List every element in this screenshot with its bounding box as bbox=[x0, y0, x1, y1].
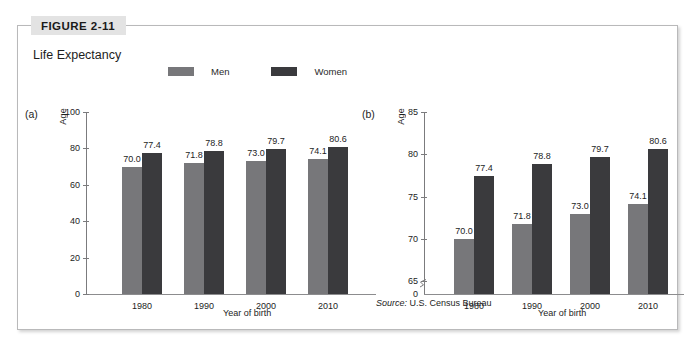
y-axis-tick bbox=[421, 112, 427, 113]
bar-men-2000 bbox=[246, 161, 266, 294]
legend-swatch-women-icon bbox=[271, 67, 297, 76]
panel-label-b: (b) bbox=[362, 108, 375, 120]
y-axis-tick bbox=[83, 148, 89, 149]
x-axis-title-b: Year of birth bbox=[538, 308, 586, 318]
bar-value-label: 70.0 bbox=[455, 226, 473, 236]
y-axis-line bbox=[424, 112, 425, 294]
bar-women-2010 bbox=[648, 149, 668, 294]
source-note: Source: U.S. Census Bureau bbox=[376, 298, 492, 308]
y-axis-tick bbox=[421, 239, 427, 240]
bar-value-label: 71.8 bbox=[513, 211, 531, 221]
bar-value-label: 78.8 bbox=[205, 138, 223, 148]
y-axis-tick bbox=[421, 197, 427, 198]
y-axis-tick bbox=[421, 154, 427, 155]
figure-number-tag: FIGURE 2-11 bbox=[31, 16, 126, 35]
y-axis-tick-label: 75 bbox=[390, 192, 418, 202]
chart-panel-a: (a) Age 02040608010070.077.4198071.878.8… bbox=[18, 86, 368, 321]
bar-value-label: 73.0 bbox=[571, 201, 589, 211]
chart-legend: Men Women bbox=[168, 66, 347, 77]
y-axis-tick bbox=[83, 258, 89, 259]
legend-label-women: Women bbox=[314, 66, 347, 77]
y-axis-tick-label: 20 bbox=[52, 253, 80, 263]
bar-value-label: 74.1 bbox=[629, 191, 647, 201]
x-axis-tick-label: 1990 bbox=[194, 301, 214, 311]
bar-men-1990 bbox=[512, 224, 532, 294]
y-axis-tick-label: 80 bbox=[390, 149, 418, 159]
bar-value-label: 79.7 bbox=[591, 144, 609, 154]
y-axis-tick-label: 100 bbox=[52, 107, 80, 117]
y-axis-tick-label: 85 bbox=[390, 107, 418, 117]
panel-label-a: (a) bbox=[25, 108, 38, 120]
axis-break-zigzag-icon bbox=[419, 278, 432, 289]
bar-value-label: 78.8 bbox=[533, 151, 551, 161]
bar-men-1980 bbox=[454, 239, 474, 294]
bar-value-label: 77.4 bbox=[475, 163, 493, 173]
bar-value-label: 74.1 bbox=[309, 146, 327, 156]
bar-women-1980 bbox=[474, 176, 494, 294]
bar-men-1990 bbox=[184, 163, 204, 294]
x-axis-tick-label: 2010 bbox=[318, 301, 338, 311]
legend-label-men: Men bbox=[211, 66, 229, 77]
bar-value-label: 80.6 bbox=[329, 134, 347, 144]
figure-title: Life Expectancy bbox=[33, 48, 121, 62]
bar-men-1980 bbox=[122, 167, 142, 294]
bar-women-2000 bbox=[266, 149, 286, 294]
bar-value-label: 77.4 bbox=[143, 140, 161, 150]
bar-women-1990 bbox=[532, 164, 552, 294]
plot-area-a: 02040608010070.077.4198071.878.8199073.0… bbox=[86, 112, 354, 294]
y-axis-tick bbox=[421, 281, 427, 282]
y-axis-tick bbox=[83, 112, 89, 113]
y-axis-tick-label: 0 bbox=[52, 289, 80, 299]
legend-swatch-men-icon bbox=[168, 67, 194, 76]
legend-item-women: Women bbox=[271, 66, 347, 77]
plot-area-b: 6570758085070.077.4198071.878.8199073.07… bbox=[424, 112, 662, 294]
bar-men-2000 bbox=[570, 214, 590, 294]
bar-men-2010 bbox=[628, 204, 648, 294]
bar-men-2010 bbox=[308, 159, 328, 294]
y-axis-tick bbox=[83, 294, 89, 295]
x-axis-tick-label: 1980 bbox=[132, 301, 152, 311]
y-axis-tick bbox=[83, 185, 89, 186]
bar-women-1980 bbox=[142, 153, 162, 294]
source-prefix: Source: bbox=[376, 298, 407, 308]
y-axis-tick-label: 70 bbox=[390, 234, 418, 244]
y-axis-tick-label: 65 bbox=[390, 276, 418, 286]
bar-women-1990 bbox=[204, 151, 224, 294]
bar-value-label: 73.0 bbox=[247, 148, 265, 158]
bar-value-label: 80.6 bbox=[649, 136, 667, 146]
y-axis-tick-label: 40 bbox=[52, 216, 80, 226]
bar-women-2010 bbox=[328, 147, 348, 294]
bar-value-label: 70.0 bbox=[123, 154, 141, 164]
x-axis-title-a: Year of birth bbox=[223, 308, 271, 318]
figure-frame: FIGURE 2-11 Life Expectancy Men Women (a… bbox=[17, 25, 678, 330]
bar-value-label: 79.7 bbox=[267, 136, 285, 146]
legend-item-men: Men bbox=[168, 66, 229, 77]
y-axis-tick-label: 60 bbox=[52, 180, 80, 190]
x-axis-line bbox=[424, 294, 684, 295]
chart-panel-b: (b) Age 6570758085070.077.4198071.878.81… bbox=[358, 86, 678, 321]
x-axis-tick-label: 2010 bbox=[638, 301, 658, 311]
y-axis-line bbox=[86, 112, 87, 294]
y-axis-tick-label: 80 bbox=[52, 143, 80, 153]
bar-value-label: 71.8 bbox=[185, 150, 203, 160]
y-axis-tick bbox=[83, 221, 89, 222]
x-axis-line bbox=[86, 294, 376, 295]
bar-women-2000 bbox=[590, 157, 610, 294]
source-text: U.S. Census Bureau bbox=[410, 298, 492, 308]
